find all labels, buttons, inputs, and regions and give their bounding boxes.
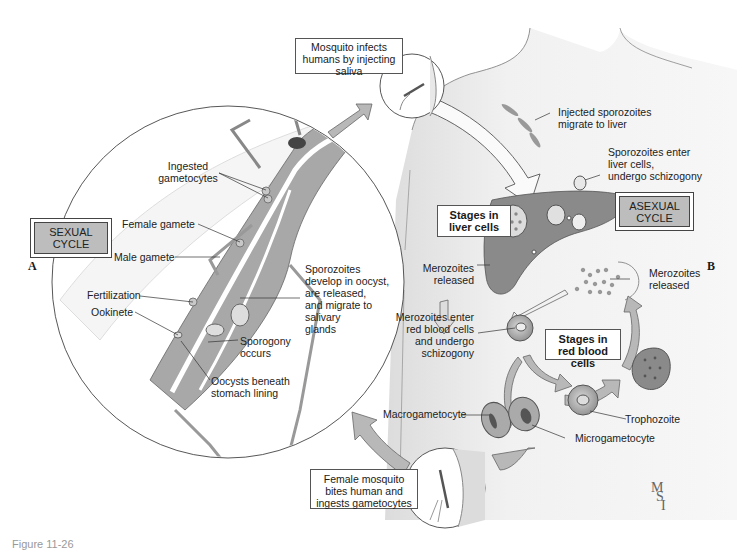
- label-line: Sporozoites: [305, 263, 389, 275]
- label-line: Sporozoites enter: [608, 146, 702, 158]
- label-line: red blood cells: [550, 345, 616, 369]
- figure-caption: Figure 11-26: [12, 538, 74, 550]
- label-merozoites-released-liver: Merozoites released: [410, 262, 474, 286]
- label-line: Mosquito infects: [300, 41, 398, 53]
- label-macrogametocyte: Macrogametocyte: [383, 408, 466, 420]
- label-injected-sporozoites: Injected sporozoites migrate to liver: [558, 106, 651, 130]
- label-line: Ingested: [158, 160, 218, 172]
- label-sporogony: Sporogony occurs: [240, 335, 291, 359]
- label-line: migrate to liver: [558, 118, 651, 130]
- label-merozoites-enter-rbc: Merozoites enter red blood cells and und…: [388, 311, 474, 359]
- label-line: released: [410, 274, 474, 286]
- label-line: develop in oocyst,: [305, 275, 389, 287]
- label-fertilization: Fertilization: [87, 289, 141, 301]
- cycle-title-line: SEXUAL: [49, 226, 92, 238]
- stages-rbc-box: Stages in red blood cells: [545, 329, 621, 360]
- label-line: Oocysts beneath: [211, 375, 290, 387]
- label-line: and undergo: [388, 335, 474, 347]
- label-line: Merozoites enter: [388, 311, 474, 323]
- label-merozoites-released-rbc: Merozoites released: [649, 267, 700, 291]
- label-line: Stages in: [442, 209, 506, 221]
- mosquito-infects-box: Mosquito infects humans by injecting sal…: [295, 38, 403, 74]
- cycle-title-line: CYCLE: [53, 238, 90, 250]
- label-line: glands: [305, 323, 389, 335]
- female-mosquito-bites-box: Female mosquito bites human and ingests …: [310, 469, 418, 509]
- label-male-gamete: Male gamete: [114, 251, 175, 263]
- label-line: schizogony: [388, 347, 474, 359]
- label-ookinete: Ookinete: [91, 306, 133, 318]
- label-sporozoites-enter-liver: Sporozoites enter liver cells, undergo s…: [608, 146, 702, 182]
- label-line: Female mosquito: [315, 473, 413, 485]
- illustrator-signature: M S I: [651, 483, 666, 510]
- label-line: humans by injecting: [300, 53, 398, 65]
- signature-letter: I: [661, 501, 666, 510]
- label-line: gametocytes: [158, 172, 218, 184]
- asexual-cycle-box: ASEXUAL CYCLE: [615, 192, 694, 231]
- label-microgametocyte: Microgametocyte: [575, 432, 655, 444]
- label-line: liver cells: [442, 221, 506, 233]
- stages-liver-box: Stages in liver cells: [437, 205, 511, 237]
- label-line: red blood cells: [388, 323, 474, 335]
- label-trophozoite: Trophozoite: [625, 413, 680, 425]
- label-line: occurs: [240, 347, 291, 359]
- panel-letter-b: B: [707, 259, 715, 274]
- label-female-gamete: Female gamete: [122, 218, 195, 230]
- panel-letter-a: A: [28, 259, 37, 274]
- label-line: bites human and: [315, 485, 413, 497]
- label-line: Stages in: [550, 333, 616, 345]
- label-line: are released,: [305, 287, 389, 299]
- label-line: Sporogony: [240, 335, 291, 347]
- label-line: salivary: [305, 311, 389, 323]
- label-line: Merozoites: [649, 267, 700, 279]
- label-line: and migrate to: [305, 299, 389, 311]
- label-line: undergo schizogony: [608, 170, 702, 182]
- cycle-title-line: CYCLE: [636, 212, 673, 224]
- label-line: Merozoites: [410, 262, 474, 274]
- label-line: ingests gametocytes: [315, 497, 413, 509]
- label-line: stomach lining: [211, 387, 290, 399]
- label-ingested-gametocytes: Ingested gametocytes: [158, 160, 218, 184]
- label-line: Injected sporozoites: [558, 106, 651, 118]
- label-line: liver cells,: [608, 158, 702, 170]
- label-oocysts: Oocysts beneath stomach lining: [211, 375, 290, 399]
- cycle-title-line: ASEXUAL: [629, 200, 680, 212]
- label-sporozoites-develop: Sporozoites develop in oocyst, are relea…: [305, 263, 389, 335]
- label-line: released: [649, 279, 700, 291]
- sexual-cycle-box: SEXUAL CYCLE: [30, 218, 112, 258]
- label-line: saliva: [300, 65, 398, 77]
